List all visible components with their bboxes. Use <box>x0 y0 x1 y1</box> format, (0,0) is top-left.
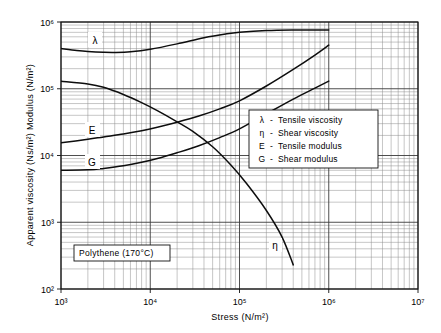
legend-symbol-e: E <box>259 141 265 151</box>
x-tick-label: 10³ <box>54 297 67 307</box>
legend-symbol-eta: η <box>260 128 265 138</box>
legend-item-0: λ - Tensile viscosity <box>260 115 343 125</box>
curve-label-E: E <box>85 122 100 137</box>
x-tick-label: 10⁵ <box>233 297 247 307</box>
curve-label-eta-text: η <box>272 240 278 251</box>
log-log-chart: 10³10⁴10⁵10⁶10⁷ 10²10³10⁴10⁵10⁶ λ E G η … <box>0 0 441 333</box>
legend-label-shear-modulus: Shear modulus <box>278 154 338 164</box>
y-tick-label: 10² <box>41 285 54 295</box>
chart-legend: λ - Tensile viscosity η - Shear viscosit… <box>249 110 378 168</box>
x-axis-title: Stress (N/m²) <box>211 312 268 322</box>
legend-dash-2: - <box>270 141 273 151</box>
y-tick-label: 10⁶ <box>40 18 54 28</box>
legend-label-tensile-viscosity: Tensile viscosity <box>278 115 343 125</box>
x-tick-label: 10⁷ <box>411 297 424 307</box>
legend-dash-0: - <box>270 115 273 125</box>
y-tick-label: 10⁴ <box>40 151 54 161</box>
legend-symbol-lambda: λ <box>260 115 265 125</box>
curve-label-e-text: E <box>89 125 96 136</box>
legend-dash-1: - <box>270 128 273 138</box>
chart-figure: 10³10⁴10⁵10⁶10⁷ 10²10³10⁴10⁵10⁶ λ E G η … <box>0 0 441 333</box>
curve-label-eta: η <box>269 238 282 252</box>
legend-item-2: E - Tensile modulus <box>259 141 342 151</box>
legend-item-1: η - Shear viscosity <box>260 128 339 138</box>
legend-dash-3: - <box>270 154 273 164</box>
legend-label-tensile-modulus: Tensile modulus <box>278 141 342 151</box>
y-tick-label: 10³ <box>41 218 54 228</box>
legend-item-3: G - Shear modulus <box>259 154 338 164</box>
x-tick-label: 10⁶ <box>322 297 336 307</box>
annotation-text: Polythene (170°C) <box>79 248 154 258</box>
legend-symbol-g: G <box>259 154 266 164</box>
annotation-polythene: Polythene (170°C) <box>74 245 170 261</box>
x-tick-label: 10⁴ <box>143 297 157 307</box>
y-axis-title: Apparent viscosity (Ns/m²) Modulus (N/m²… <box>25 64 35 246</box>
curve-label-G: G <box>85 154 100 169</box>
curve-label-lambda: λ <box>88 32 102 47</box>
y-tick-label: 10⁵ <box>40 84 54 94</box>
legend-label-shear-viscosity: Shear viscosity <box>278 128 339 138</box>
curve-label-lambda-text: λ <box>93 35 98 46</box>
curve-label-g-text: G <box>88 157 96 168</box>
